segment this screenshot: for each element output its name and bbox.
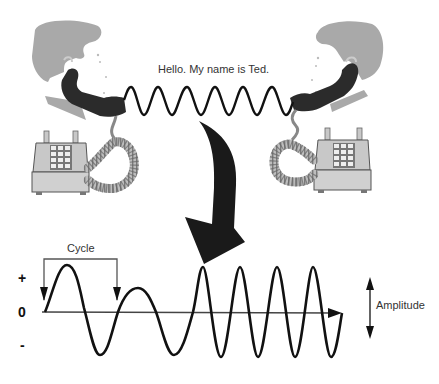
positive-label: +	[18, 271, 26, 285]
right-person	[290, 21, 383, 140]
left-face-features	[97, 54, 107, 94]
left-person	[32, 20, 126, 144]
amplitude-label: Amplitude	[376, 300, 425, 311]
diagram-canvas	[0, 0, 439, 384]
cycle-left-arrowhead-icon	[40, 287, 48, 301]
cycle-label: Cycle	[67, 243, 95, 254]
negative-label: -	[20, 338, 25, 352]
sound-wave-diagram: Hello. My name is Ted. Cycle Amplitude +…	[0, 0, 439, 384]
axis-arrowhead-icon	[328, 308, 342, 318]
phone-signal-wave	[124, 87, 293, 115]
cycle-right-arrowhead-icon	[113, 287, 121, 301]
right-face-features	[311, 57, 319, 93]
zero-label: 0	[18, 305, 26, 319]
amplitude-up-arrowhead-icon	[366, 277, 374, 290]
curved-down-arrow-icon	[185, 121, 245, 264]
amplitude-down-arrowhead-icon	[366, 326, 374, 339]
speech-text: Hello. My name is Ted.	[158, 64, 269, 75]
left-keypad	[50, 145, 72, 170]
sound-waveform	[45, 265, 342, 357]
left-telephone	[32, 131, 134, 195]
right-keypad	[333, 143, 355, 168]
right-telephone	[274, 128, 371, 193]
